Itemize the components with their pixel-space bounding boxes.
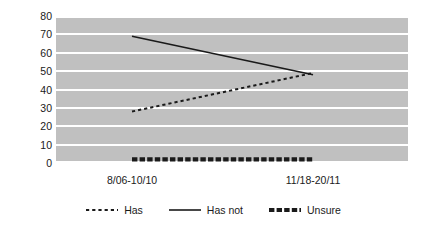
plot-area [56,16,408,163]
x-tick-label: 11/18-20/11 [253,174,373,186]
series-line-has-not [132,36,313,75]
y-tick-label: 30 [30,103,52,113]
y-tick-label: 20 [30,121,52,131]
x-tick-label: 8/06-10/10 [72,174,192,186]
series-layer [56,16,408,163]
y-tick-label: 10 [30,140,52,150]
legend-entry-unsure[interactable]: Unsure [269,205,341,216]
y-axis-ticks: 80706050403020100 [28,0,52,227]
y-tick-label: 80 [30,11,52,21]
x-axis-ticks: 8/06-10/1011/18-20/11 [0,174,427,190]
legend-entry-has[interactable]: Has [86,205,143,216]
legend-entry-has-not[interactable]: Has not [169,205,243,216]
legend-label: Has not [207,205,243,216]
y-tick-label: 40 [30,85,52,95]
line-chart: Percentage of Respondents 80706050403020… [0,0,427,227]
legend-swatch-icon [169,205,201,215]
y-tick-label: 60 [30,48,52,58]
y-tick-label: 0 [30,158,52,168]
y-tick-label: 70 [30,29,52,39]
legend-label: Unsure [307,205,341,216]
legend-label: Has [124,205,143,216]
series-line-has [132,73,313,112]
y-tick-label: 50 [30,66,52,76]
legend-swatch-icon [269,205,301,215]
chart-legend: HasHas notUnsure [0,200,427,220]
legend-swatch-icon [86,205,118,215]
